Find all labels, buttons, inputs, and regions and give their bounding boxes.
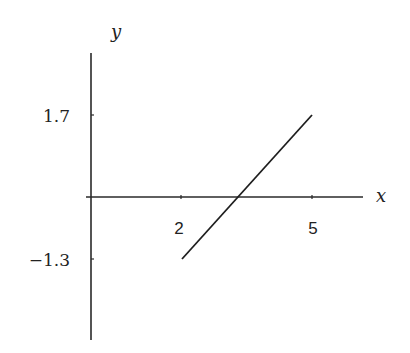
x-axis-label: x	[376, 185, 386, 206]
x-tick-label-5: 5	[308, 219, 317, 238]
y-tick-label-1.7: 1.7	[43, 106, 70, 126]
chart: y x 1.7 −1.3 2 5	[0, 0, 410, 353]
data-line	[182, 115, 312, 259]
y-axis-label: y	[110, 21, 122, 42]
y-tick-label-neg-1.3: −1.3	[29, 250, 70, 270]
x-tick-label-2: 2	[174, 219, 183, 238]
